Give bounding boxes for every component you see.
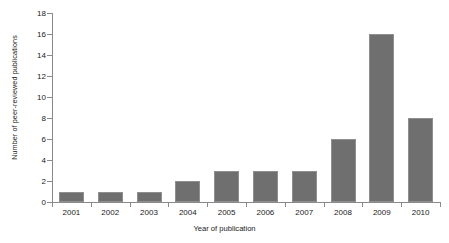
y-axis-tick-mark <box>47 97 52 98</box>
y-axis-tick-label: 18 <box>37 9 46 18</box>
y-axis-tick-mark <box>47 76 52 77</box>
y-axis-tick-mark <box>47 139 52 140</box>
y-axis-tick-label: 8 <box>42 114 46 123</box>
x-axis-tick-mark <box>207 203 208 207</box>
x-axis-tick-mark <box>130 203 131 207</box>
y-axis-tick-labels: 024681012141618 <box>20 13 46 202</box>
x-axis-tick-label: 2008 <box>334 208 352 217</box>
bar-2010 <box>408 118 433 202</box>
bar-2008 <box>331 139 356 202</box>
y-axis-tick-label: 10 <box>37 93 46 102</box>
x-axis-tick-mark <box>401 203 402 207</box>
x-axis-tick-mark <box>52 203 53 207</box>
bar-2009 <box>369 34 394 202</box>
y-axis-tick-mark <box>47 55 52 56</box>
y-axis-tick-label: 4 <box>42 156 46 165</box>
x-axis-tick-label: 2010 <box>412 208 430 217</box>
x-axis-tick-mark <box>246 203 247 207</box>
bar-2001 <box>59 192 84 203</box>
x-axis-tick-label: 2007 <box>295 208 313 217</box>
y-axis-tick-label: 14 <box>37 51 46 60</box>
x-axis-tick-label: 2004 <box>179 208 197 217</box>
x-axis-tick-label: 2005 <box>218 208 236 217</box>
y-axis-tick-label: 6 <box>42 135 46 144</box>
x-axis-tick-mark <box>440 203 441 207</box>
y-axis-tick-label: 16 <box>37 30 46 39</box>
y-axis-title: Number of peer-reviewed publications <box>10 3 19 193</box>
bar-2002 <box>98 192 123 203</box>
x-axis-tick-mark <box>362 203 363 207</box>
x-axis-tick-label: 2003 <box>140 208 158 217</box>
x-axis-tick-mark <box>168 203 169 207</box>
x-axis-tick-label: 2009 <box>373 208 391 217</box>
x-axis-tick-label: 2006 <box>256 208 274 217</box>
y-axis-tick-mark <box>47 118 52 119</box>
y-axis-tick-mark <box>47 34 52 35</box>
y-axis-tick-mark <box>47 13 52 14</box>
x-axis-tick-mark <box>285 203 286 207</box>
bar-2003 <box>137 192 162 203</box>
y-axis-tick-label: 0 <box>42 198 46 207</box>
bar-2006 <box>253 171 278 203</box>
bar-2005 <box>214 171 239 203</box>
y-axis-tick-label: 2 <box>42 177 46 186</box>
bar-2007 <box>292 171 317 203</box>
y-axis-tick-label: 12 <box>37 72 46 81</box>
x-axis-tick-mark <box>91 203 92 207</box>
y-axis-tick-mark <box>47 160 52 161</box>
x-axis-tick-label: 2001 <box>62 208 80 217</box>
x-axis-tick-mark <box>324 203 325 207</box>
bar-2004 <box>175 181 200 202</box>
x-axis-tick-label: 2002 <box>101 208 119 217</box>
bar-chart: Number of peer-reviewed publications 024… <box>0 0 449 243</box>
y-axis-tick-mark <box>47 181 52 182</box>
x-axis-title: Year of publication <box>0 224 449 233</box>
